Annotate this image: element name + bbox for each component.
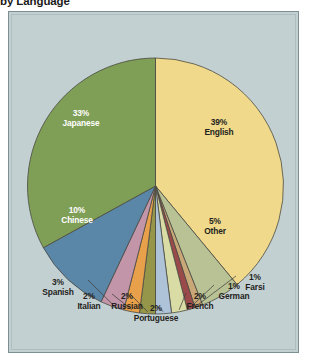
slice-name-chinese: Chinese [46,215,108,225]
slice-pct-other: 5% [193,216,237,226]
slice-name-german: German [207,291,261,301]
slice-label-english: 39% English [189,117,249,137]
slice-label-farsi: 1% Farsi [234,272,276,292]
slice-label-japanese: 33% Japanese [48,108,114,128]
slice-pct-japanese: 33% [48,108,114,118]
slice-name-japanese: Japanese [48,118,114,128]
slice-label-other: 5% Other [193,216,237,236]
slice-name-french: French [176,301,224,311]
slice-pct-farsi: 1% [234,272,276,282]
slice-name-portuguese: Portuguese [124,313,188,323]
slice-pct-spanish: 3% [30,277,86,287]
slice-name-other: Other [193,226,237,236]
slice-pct-russian: 2% [101,291,153,301]
slice-pct-chinese: 10% [46,205,108,215]
slice-label-chinese: 10% Chinese [46,205,108,225]
slice-name-farsi: Farsi [234,282,276,292]
slice-pct-english: 39% [189,117,249,127]
slice-name-english: English [189,127,249,137]
